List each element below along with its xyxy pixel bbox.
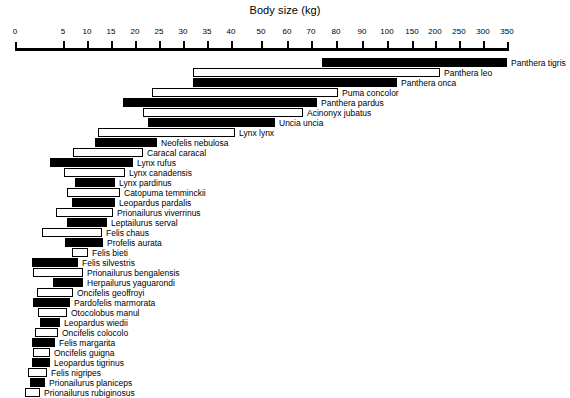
bar-acinonyx-jubatus <box>143 108 303 117</box>
axis-tick-label: 20 <box>131 27 140 36</box>
bar-oncifelis-colocolo <box>35 328 58 337</box>
bar-prionailurus-viverrinus <box>56 208 113 217</box>
bar-leopardus-pardalis <box>72 198 115 207</box>
bar-lynx-pardinus <box>75 178 115 187</box>
bar-lynx-rufus <box>50 158 133 167</box>
axis-tick-label: 100 <box>380 27 393 36</box>
bar-panthera-leo <box>193 68 440 77</box>
bar-label: Prionailurus viverrinus <box>117 209 201 218</box>
axis-tick-label: 350 <box>500 27 513 36</box>
bar-lynx-canadensis <box>64 168 125 177</box>
bar-puma-concolor <box>152 88 338 97</box>
bar-oncifelis-geoffroyi <box>37 288 73 297</box>
bar-label: Leopardus pardalis <box>119 199 191 208</box>
bar-panthera-onca <box>193 78 397 87</box>
axis-tick-label: 70 <box>307 27 316 36</box>
bar-label: Panthera leo <box>444 69 492 78</box>
axis-tick-label: 35 <box>203 27 212 36</box>
axis-tick <box>159 41 161 48</box>
axis-tick <box>435 41 437 48</box>
bar-label: Leptailurus serval <box>111 219 178 228</box>
axis-tick <box>183 41 185 48</box>
bar-lynx-lynx <box>98 128 235 137</box>
bar-oncifelis-guigna <box>33 348 50 357</box>
bar-prionailurus-rubiginosus <box>25 388 40 397</box>
bar-label: Puma concolor <box>342 89 399 98</box>
bar-leopardus-tigrinus <box>32 358 50 367</box>
axis-tick-label: 80 <box>332 27 341 36</box>
bar-label: Otocolobus manul <box>71 309 140 318</box>
axis-tick-label: 5 <box>61 27 65 36</box>
bar-panthera-pardus <box>123 98 317 107</box>
bar-label: Prionailurus rubiginosus <box>44 389 135 398</box>
axis-cap-right <box>507 42 509 51</box>
bar-profelis-aurata <box>65 238 103 247</box>
bar-neofelis-nebulosa <box>95 138 157 147</box>
bar-label: Leopardus tigrinus <box>54 359 124 368</box>
bar-caracal-caracal <box>73 148 143 157</box>
axis-tick <box>412 41 414 48</box>
bar-leptailurus-serval <box>67 218 107 227</box>
bar-label: Felis bieti <box>92 249 128 258</box>
axis-tick <box>87 41 89 48</box>
axis-tick <box>459 41 461 48</box>
axis-tick-label: 250 <box>452 27 465 36</box>
bar-label: Felis chaus <box>106 229 149 238</box>
axis-tick <box>231 41 233 48</box>
chart-title: Body size (kg) <box>0 4 570 16</box>
axis-tick <box>261 41 263 48</box>
axis-tick-label: 0 <box>13 27 17 36</box>
bar-uncia-uncia <box>148 118 275 127</box>
bar-label: Profelis aurata <box>107 239 162 248</box>
bar-prionailurus-planiceps <box>30 378 45 387</box>
bar-felis-chaus <box>42 228 102 237</box>
axis-tick-label: 10 <box>83 27 92 36</box>
bar-label: Prionailurus planiceps <box>49 379 132 388</box>
bar-label: Lynx canadensis <box>129 169 192 178</box>
axis-tick <box>207 41 209 48</box>
axis-baseline <box>15 48 507 51</box>
bar-label: Felis margarita <box>59 339 115 348</box>
axis-tick-label: 150 <box>405 27 418 36</box>
bar-label: Lynx rufus <box>137 159 176 168</box>
axis-tick <box>111 41 113 48</box>
bar-label: Leopardus wiedii <box>64 319 128 328</box>
bar-label: Uncia uncia <box>279 119 323 128</box>
bar-label: Acinonyx jubatus <box>307 109 371 118</box>
axis-tick <box>362 41 364 48</box>
axis-tick-label: 50 <box>257 27 266 36</box>
axis-tick-label: 30 <box>179 27 188 36</box>
bar-felis-nigripes <box>28 368 47 377</box>
bar-label: Prionailurus bengalensis <box>87 269 180 278</box>
bar-label: Herpailurus yaguarondi <box>87 279 175 288</box>
axis-tick <box>63 41 65 48</box>
bar-prionailurus-bengalensis <box>33 268 83 277</box>
bar-label: Oncifelis geoffroyi <box>77 289 144 298</box>
bar-catopuma-temminckii <box>67 188 120 197</box>
bar-label: Caracal caracal <box>147 149 206 158</box>
axis-cap-left <box>15 42 17 51</box>
axis-tick <box>287 41 289 48</box>
bar-felis-bieti <box>72 248 88 257</box>
axis-tick <box>483 41 485 48</box>
axis-tick-label: 90 <box>358 27 367 36</box>
axis-tick <box>311 41 313 48</box>
bar-felis-margarita <box>32 338 55 347</box>
bar-felis-silvestris <box>32 258 78 267</box>
axis-tick-label: 40 <box>227 27 236 36</box>
bar-label: Oncifelis colocolo <box>62 329 128 338</box>
bar-label: Lynx lynx <box>239 129 274 138</box>
axis-tick-label: 60 <box>283 27 292 36</box>
bar-label: Panthera tigris <box>511 59 566 68</box>
bar-panthera-tigris <box>322 58 507 67</box>
bar-label: Neofelis nebulosa <box>161 139 229 148</box>
bar-label: Lynx pardinus <box>119 179 172 188</box>
axis-tick-label: 300 <box>476 27 489 36</box>
axis-tick <box>336 41 338 48</box>
bar-label: Oncifelis guigna <box>54 349 114 358</box>
axis-tick-label: 200 <box>428 27 441 36</box>
bar-label: Panthera onca <box>401 79 456 88</box>
axis-tick-label: 15 <box>107 27 116 36</box>
bar-label: Felis nigripes <box>51 369 101 378</box>
